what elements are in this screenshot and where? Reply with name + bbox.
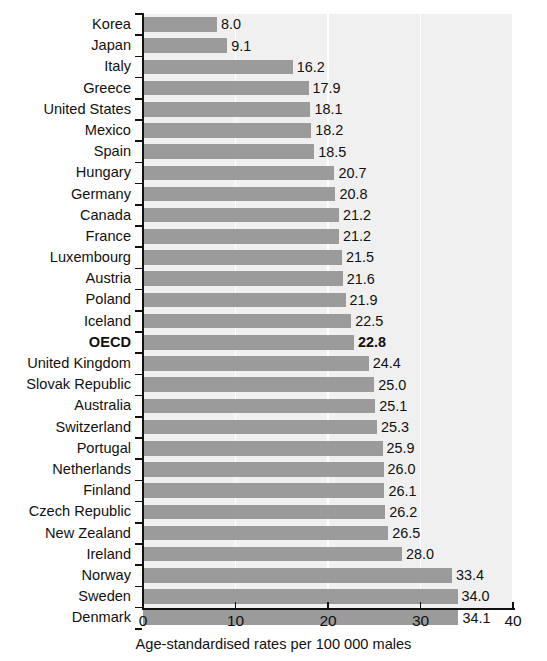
bar-row: 26.5 xyxy=(143,523,513,544)
category-label: Germany xyxy=(0,184,136,205)
bar xyxy=(143,123,311,138)
bar-value-label: 26.0 xyxy=(384,460,416,478)
y-axis-tick xyxy=(135,437,142,439)
category-label: Sweden xyxy=(0,586,136,607)
bar xyxy=(143,314,351,329)
category-label: Greece xyxy=(0,78,136,99)
bar xyxy=(143,144,314,159)
category-label: Ireland xyxy=(0,544,136,565)
y-axis-tick xyxy=(135,225,142,227)
category-label: Italy xyxy=(0,56,136,77)
bar-value-label: 22.8 xyxy=(354,333,386,351)
bar-value-label: 34.0 xyxy=(458,587,490,605)
bar-row: 21.2 xyxy=(143,226,513,247)
bar xyxy=(143,271,343,286)
category-label: New Zealand xyxy=(0,523,136,544)
category-label: Iceland xyxy=(0,311,136,332)
y-axis-tick xyxy=(135,183,142,185)
bar-row: 25.1 xyxy=(143,395,513,416)
bar-row: 20.7 xyxy=(143,162,513,183)
bar-row: 20.8 xyxy=(143,184,513,205)
bar-row: 24.4 xyxy=(143,353,513,374)
bar xyxy=(143,420,377,435)
bar-value-label: 17.9 xyxy=(309,79,341,97)
category-label: France xyxy=(0,226,136,247)
bar-row: 26.1 xyxy=(143,480,513,501)
x-axis-tick-label: 0 xyxy=(139,612,148,630)
y-axis-tick xyxy=(135,310,142,312)
x-axis-tick xyxy=(512,602,514,609)
bar xyxy=(143,166,334,181)
y-axis-tick xyxy=(135,352,142,354)
bar xyxy=(143,356,369,371)
y-axis-tick xyxy=(135,34,142,36)
bar xyxy=(143,208,339,223)
category-label: Netherlands xyxy=(0,459,136,480)
bar-value-label: 16.2 xyxy=(293,58,325,76)
bar-value-label: 21.9 xyxy=(346,291,378,309)
bar-value-label: 18.2 xyxy=(311,121,343,139)
bar-row: 25.9 xyxy=(143,438,513,459)
x-axis-tick xyxy=(142,602,144,609)
bar-value-label: 25.9 xyxy=(383,439,415,457)
bar-row: 25.3 xyxy=(143,417,513,438)
bar-row: 26.2 xyxy=(143,501,513,522)
y-axis-tick xyxy=(135,395,142,397)
y-axis-tick xyxy=(135,522,142,524)
bar-value-label: 8.0 xyxy=(217,15,241,33)
y-axis-tick xyxy=(135,458,142,460)
bar-row: 18.5 xyxy=(143,141,513,162)
bar xyxy=(143,462,384,477)
category-label: Finland xyxy=(0,480,136,501)
x-axis-tick xyxy=(327,602,329,609)
category-label: OECD xyxy=(0,332,136,353)
bar-value-label: 25.1 xyxy=(375,397,407,415)
y-axis-tick xyxy=(135,501,142,503)
plot-area: 8.09.116.217.918.118.218.520.720.821.221… xyxy=(143,14,513,608)
bar-chart: KoreaJapanItalyGreeceUnited StatesMexico… xyxy=(0,0,547,661)
bar xyxy=(143,250,342,265)
y-axis-tick xyxy=(135,416,142,418)
bar-row: 21.2 xyxy=(143,205,513,226)
bar-value-label: 20.8 xyxy=(335,185,367,203)
x-axis-tick-label: 10 xyxy=(227,612,244,630)
bar xyxy=(143,377,374,392)
bar-value-label: 21.6 xyxy=(343,270,375,288)
y-axis-tick xyxy=(135,204,142,206)
bar xyxy=(143,505,385,520)
bar-row: 26.0 xyxy=(143,459,513,480)
category-label: Portugal xyxy=(0,438,136,459)
bar-value-label: 24.4 xyxy=(369,354,401,372)
bar xyxy=(143,589,458,604)
bar-row: 8.0 xyxy=(143,14,513,35)
bar-row: 9.1 xyxy=(143,35,513,56)
x-axis-tick xyxy=(235,602,237,609)
category-label: Korea xyxy=(0,14,136,35)
bar-row: 16.2 xyxy=(143,56,513,77)
bar xyxy=(143,187,335,202)
bar xyxy=(143,17,217,32)
bar-value-label: 9.1 xyxy=(227,37,251,55)
category-label: United Kingdom xyxy=(0,353,136,374)
x-axis-tick-label: 40 xyxy=(504,612,521,630)
bar-value-label: 21.2 xyxy=(339,227,371,245)
bar xyxy=(143,399,375,414)
y-axis-tick xyxy=(135,162,142,164)
y-axis-tick xyxy=(135,331,142,333)
y-axis-tick xyxy=(135,480,142,482)
bar xyxy=(143,81,309,96)
y-axis-tick xyxy=(135,119,142,121)
x-axis-title: Age-standardised rates per 100 000 males xyxy=(0,636,547,652)
bar xyxy=(143,441,383,456)
bar xyxy=(143,568,452,583)
category-label: Norway xyxy=(0,565,136,586)
y-axis-tick xyxy=(135,56,142,58)
bar-value-label: 25.0 xyxy=(374,376,406,394)
y-axis-tick xyxy=(135,586,142,588)
bar-value-label: 21.2 xyxy=(339,206,371,224)
y-axis-tick xyxy=(135,268,142,270)
category-label: Luxembourg xyxy=(0,247,136,268)
bar-value-label: 22.5 xyxy=(351,312,383,330)
y-axis-tick xyxy=(135,77,142,79)
bar-row: 22.5 xyxy=(143,311,513,332)
